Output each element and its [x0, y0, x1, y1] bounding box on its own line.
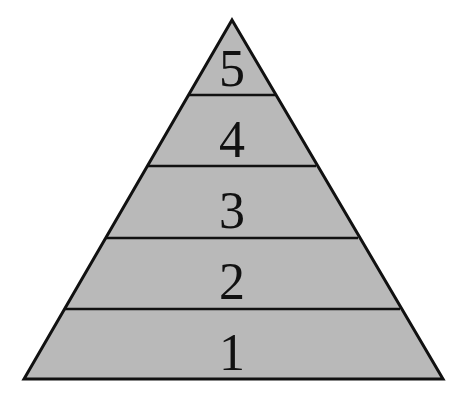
pyramid-diagram: 5 4 3 2 1	[0, 0, 467, 401]
level-label-3: 3	[219, 182, 245, 239]
level-label-2: 2	[219, 253, 245, 310]
level-label-5: 5	[219, 40, 245, 97]
level-label-4: 4	[219, 111, 245, 168]
level-label-1: 1	[219, 324, 245, 381]
